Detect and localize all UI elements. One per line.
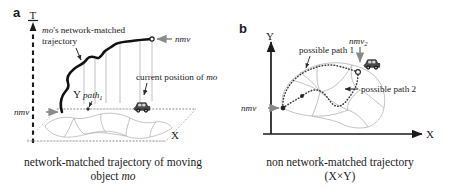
nmv-left-annotation-b: nmv: [241, 103, 279, 113]
nmv-top-annotation-a: nmv: [157, 34, 191, 44]
path1-subscript: 1: [99, 94, 102, 101]
panel-b: b Y X: [239, 21, 434, 183]
caption-b-line2: (X×Y): [325, 170, 356, 183]
possible-path-1-pointer: [306, 56, 310, 68]
current-position-pointer: [144, 83, 147, 95]
caption-a-line2: object mo: [90, 170, 135, 183]
x-axis-b: X: [263, 128, 434, 140]
trajectory-label-pointer: [76, 48, 81, 60]
trajectory-label-mo: mo: [42, 25, 54, 35]
nmv-node-b: [281, 106, 286, 111]
possible-path-2-annotation: possible path 2: [345, 84, 417, 94]
panel-a: a T Y X: [13, 5, 218, 183]
path1-annotation-a: path1: [82, 90, 103, 111]
nmv-left-label: nmv: [14, 107, 30, 117]
y-axis-label: Y: [73, 88, 81, 100]
t-axis-arrowhead: [30, 22, 37, 31]
possible-path-1-annotation: possible path 1: [299, 45, 355, 68]
trajectory-label-line2: trajectory: [42, 36, 78, 46]
t-axis-a: T: [28, 9, 38, 144]
x-axis-label-b: X: [426, 128, 434, 140]
trajectory-end-node: [150, 37, 154, 41]
possible-path-2-label: possible path 2: [361, 84, 417, 94]
road-network-a: [45, 113, 172, 138]
vehicle-icon-b: [364, 60, 380, 70]
path1-pointer: [89, 101, 92, 107]
nmv2-label: nmv2: [349, 36, 368, 47]
path1-label: path1: [82, 90, 103, 101]
t-axis-label: T: [30, 9, 37, 21]
panel-b-letter: b: [239, 21, 247, 36]
nmv2-subscript: 2: [364, 40, 368, 47]
nmv-left-label-b: nmv: [241, 103, 257, 113]
trajectory-label-line1: mo's network-matched: [42, 25, 125, 35]
y-axis-label-b: Y: [266, 30, 274, 42]
possible-path-1-label: possible path 1: [299, 45, 355, 55]
panel-a-letter: a: [13, 5, 21, 20]
path1-node: [86, 107, 89, 110]
ground-plane-a: Y X: [27, 88, 196, 141]
nmv-left-annotation-a: nmv: [14, 107, 58, 117]
y-axis-b: Y: [266, 30, 274, 134]
nmv2-node-b: [356, 70, 361, 75]
vehicle-icon-a: [134, 103, 150, 113]
current-position-annotation-a: current position of mo: [136, 72, 218, 95]
trajectory-annotation-a: mo's network-matched trajectory: [42, 25, 125, 60]
caption-b-line1: non network-matched trajectory: [266, 156, 414, 169]
figure-container: a T Y X: [0, 0, 452, 189]
intermediate-node-b: [300, 94, 304, 98]
road-network-b: [282, 63, 385, 128]
x-axis-label: X: [171, 129, 179, 141]
current-position-label: current position of mo: [136, 72, 218, 82]
nmv-top-label: nmv: [175, 34, 191, 44]
caption-a-line1: network-matched trajectory of moving: [24, 156, 202, 169]
